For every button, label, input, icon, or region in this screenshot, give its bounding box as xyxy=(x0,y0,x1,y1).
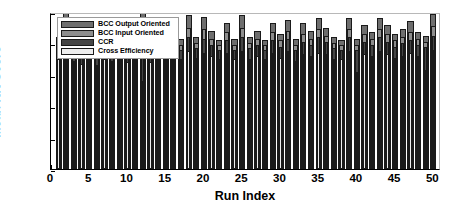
bar-cross-efficiency xyxy=(80,64,82,169)
bar-cross-efficiency xyxy=(363,54,365,169)
bar-group xyxy=(399,14,407,169)
bar-cross-efficiency xyxy=(149,62,151,169)
x-tick-label: 15 xyxy=(158,172,171,184)
bar-cross-efficiency xyxy=(333,59,335,169)
bar-cross-efficiency xyxy=(165,56,167,169)
bar-cross-efficiency xyxy=(348,51,350,169)
y-tick-mark xyxy=(51,140,55,141)
bar-group xyxy=(414,14,422,169)
bar-group xyxy=(345,14,353,169)
bar-group xyxy=(238,14,246,169)
x-tick-label: 5 xyxy=(85,172,91,184)
x-tick-label: 30 xyxy=(273,172,286,184)
bar-cross-efficiency xyxy=(73,61,75,169)
bar-cross-efficiency xyxy=(142,81,144,169)
bar-group xyxy=(185,14,193,169)
bar-cross-efficiency xyxy=(409,53,411,169)
bar-group xyxy=(330,14,338,169)
y-tick-mark xyxy=(51,108,55,109)
bar-group xyxy=(192,14,200,169)
bar-cross-efficiency xyxy=(249,59,251,169)
bar-cross-efficiency xyxy=(264,59,266,169)
legend-item[interactable]: BCC Input Oriented xyxy=(61,29,175,38)
bar-cross-efficiency xyxy=(180,59,182,169)
bar-group xyxy=(384,14,392,169)
chart-figure: Mean NN Score 00.20.40.60.81 05101520253… xyxy=(0,0,453,216)
bar-cross-efficiency xyxy=(394,58,396,169)
x-tick-label: 45 xyxy=(388,172,401,184)
bar-group xyxy=(261,14,269,169)
bar-cross-efficiency xyxy=(210,56,212,169)
bar-cross-efficiency xyxy=(88,59,90,169)
bar-cross-efficiency xyxy=(57,59,59,169)
bar-group xyxy=(284,14,292,169)
bar-cross-efficiency xyxy=(417,56,419,169)
bar-cross-efficiency xyxy=(356,72,358,169)
bar-group xyxy=(231,14,239,169)
bar-cross-efficiency xyxy=(233,59,235,169)
bar-group xyxy=(391,14,399,169)
bar-group xyxy=(223,14,231,169)
bar-cross-efficiency xyxy=(126,62,128,169)
bar-cross-efficiency xyxy=(134,58,136,169)
y-tick-mark xyxy=(51,45,55,46)
bar-group xyxy=(338,14,346,169)
bar-group xyxy=(307,14,315,169)
legend-swatch-bcc-output-oriented xyxy=(61,21,94,28)
bar-group xyxy=(315,14,323,169)
bar-cross-efficiency xyxy=(302,54,304,169)
bar-group xyxy=(254,14,262,169)
x-tick-label: 50 xyxy=(426,172,439,184)
bar-group xyxy=(430,14,438,169)
bar-cross-efficiency xyxy=(432,50,434,169)
bar-cross-efficiency xyxy=(172,58,174,169)
bar-cross-efficiency xyxy=(371,56,373,169)
bar-cross-efficiency xyxy=(103,59,105,169)
bar-group xyxy=(407,14,415,169)
bar-cross-efficiency xyxy=(187,51,189,169)
x-tick-label: 40 xyxy=(349,172,362,184)
bar-cross-efficiency xyxy=(310,56,312,169)
bar-group xyxy=(353,14,361,169)
bar-cross-efficiency xyxy=(157,59,159,169)
bar-cross-efficiency xyxy=(279,58,281,169)
bar-group xyxy=(215,14,223,169)
x-axis-title: Run Index xyxy=(50,189,440,203)
x-tick-label: 25 xyxy=(235,172,248,184)
bar-cross-efficiency xyxy=(317,53,319,169)
bar-cross-efficiency xyxy=(272,53,274,169)
bar-group xyxy=(208,14,216,169)
bar-cross-efficiency xyxy=(402,56,404,169)
bar-group xyxy=(376,14,384,169)
bar-group xyxy=(269,14,277,169)
x-axis-tick-labels: 05101520253035404550 xyxy=(50,172,440,188)
bar-group xyxy=(300,14,308,169)
bar-group xyxy=(277,14,285,169)
bar-cross-efficiency xyxy=(379,51,381,169)
bar-cross-efficiency xyxy=(241,51,243,169)
x-tick-label: 35 xyxy=(311,172,324,184)
bar-cross-efficiency xyxy=(119,58,121,169)
bar-cross-efficiency xyxy=(295,61,297,169)
bar-group xyxy=(200,14,208,169)
legend-label: Cross Efficiency xyxy=(98,47,154,56)
legend-swatch-bcc-input-oriented xyxy=(61,30,94,37)
bar-group xyxy=(422,14,430,169)
chart-legend: BCC Output Oriented BCC Input Oriented C… xyxy=(57,17,179,59)
bar-cross-efficiency xyxy=(386,54,388,169)
legend-item[interactable]: Cross Efficiency xyxy=(61,47,175,56)
x-tick-label: 0 xyxy=(47,172,53,184)
bar-group xyxy=(292,14,300,169)
bar-group xyxy=(361,14,369,169)
bar-cross-efficiency xyxy=(195,58,197,169)
y-tick-mark xyxy=(51,77,55,78)
y-tick-mark xyxy=(51,14,55,15)
bar-cross-efficiency xyxy=(226,53,228,169)
x-tick-label: 10 xyxy=(120,172,133,184)
bar-cross-efficiency xyxy=(325,54,327,169)
bar-cross-efficiency xyxy=(425,70,427,169)
bar-cross-efficiency xyxy=(65,56,67,169)
x-tick-mark xyxy=(51,165,52,169)
bar-cross-efficiency xyxy=(111,61,113,169)
y-axis-title: Mean NN Score xyxy=(0,46,3,138)
